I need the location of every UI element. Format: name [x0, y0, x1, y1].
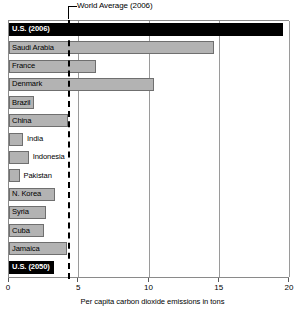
- bar-label: Jamaica: [12, 244, 40, 253]
- bar-label: Indonesia: [33, 152, 65, 161]
- bar-label: Pakistan: [24, 171, 52, 180]
- annotation-leader-horizontal: [68, 6, 77, 7]
- bar-label: Syria: [12, 207, 29, 216]
- x-axis: 05101520: [8, 278, 289, 298]
- tick-label-0: 0: [6, 283, 10, 292]
- bar-rows: U.S. (2006)Saudi ArabiaFranceDenmarkBraz…: [9, 21, 289, 277]
- bar-row: Cuba: [9, 222, 289, 240]
- bar-row: India: [9, 131, 289, 149]
- tick-label-15: 15: [214, 283, 223, 292]
- bar-label: Cuba: [12, 226, 30, 235]
- annotation-leader-vertical: [68, 6, 69, 19]
- tick-label-20: 20: [285, 283, 294, 292]
- bar-row: U.S. (2050): [9, 259, 289, 277]
- tick-label-5: 5: [76, 283, 80, 292]
- bar-label: Saudi Arabia: [12, 43, 54, 52]
- bar-label: Denmark: [12, 79, 42, 88]
- carbon-emissions-bar-chart: World Average (2006) U.S. (2006)Saudi Ar…: [0, 0, 305, 315]
- world-average-label: World Average (2006): [77, 1, 153, 10]
- tick-5: [77, 278, 78, 282]
- bar-label: U.S. (2006): [12, 24, 50, 33]
- bar-label: China: [12, 116, 31, 125]
- tick-0: [8, 278, 9, 282]
- x-axis-title: Per capita carbon dioxide emissions in t…: [0, 297, 305, 306]
- bar-pakistan: [9, 169, 20, 182]
- bar-label: N. Korea: [12, 189, 41, 198]
- bar-row: N. Korea: [9, 186, 289, 204]
- bar-row: U.S. (2006): [9, 21, 289, 39]
- bar-u-s-2006: [9, 23, 283, 36]
- bar-row: China: [9, 112, 289, 130]
- bar-row: Denmark: [9, 76, 289, 94]
- bar-label: France: [12, 61, 35, 70]
- tick-10: [148, 278, 149, 282]
- bar-label: India: [27, 134, 43, 143]
- bar-row: Syria: [9, 204, 289, 222]
- bar-row: Jamaica: [9, 240, 289, 258]
- bar-row: Saudi Arabia: [9, 39, 289, 57]
- bar-india: [9, 133, 23, 146]
- bar-indonesia: [9, 151, 29, 164]
- tick-label-10: 10: [144, 283, 153, 292]
- tick-20: [288, 278, 289, 282]
- gridline-20: [289, 21, 290, 277]
- bar-row: Pakistan: [9, 167, 289, 185]
- world-average-line: [68, 20, 70, 279]
- plot-area: U.S. (2006)Saudi ArabiaFranceDenmarkBraz…: [8, 20, 289, 278]
- tick-15: [218, 278, 219, 282]
- bar-row: Brazil: [9, 94, 289, 112]
- bar-label: Brazil: [12, 98, 30, 107]
- bar-row: France: [9, 58, 289, 76]
- world-average-annotation: World Average (2006): [0, 0, 305, 22]
- bar-label: U.S. (2050): [12, 262, 50, 271]
- bar-row: Indonesia: [9, 149, 289, 167]
